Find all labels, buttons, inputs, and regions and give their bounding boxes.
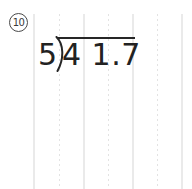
worksheet-page: 10 5 4 1.7 [0, 0, 192, 189]
dividend-digits: 4 1.7 [62, 40, 141, 70]
ruled-line-solid [181, 14, 183, 189]
ruled-lines-layer [0, 0, 192, 189]
ruled-line-solid [33, 14, 35, 189]
problem-number-badge: 10 [9, 13, 28, 32]
ruled-line-dotted [157, 14, 158, 189]
